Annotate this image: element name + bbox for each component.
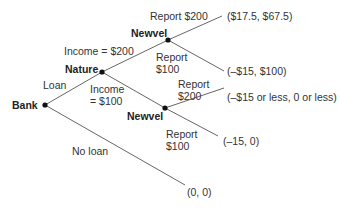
edge-loan-label: Loan [43, 79, 66, 92]
node-nature-dot [99, 69, 104, 74]
game-tree-edges [0, 0, 340, 210]
node-newvel-low-label: Newvel [127, 110, 163, 123]
edge-income-100-label-2: = $100 [90, 95, 122, 108]
edge-low-report-100-label-2: $100 [166, 140, 189, 153]
node-newvel-high-label: Newvel [131, 27, 167, 40]
edge-no-loan [45, 105, 185, 185]
payoff-low-report-100: (–15, 0) [223, 135, 259, 148]
edge-income-200-label: Income = $200 [64, 45, 134, 58]
edge-high-report-200-label: Report $200 [150, 10, 208, 23]
payoff-high-report-200: ($17.5, $67.5) [227, 10, 292, 23]
edge-high-report-100-label-2: $100 [156, 63, 179, 76]
payoff-no-loan: (0, 0) [187, 186, 212, 199]
edge-low-report-200-label-2: $200 [178, 90, 201, 103]
payoff-high-report-100: (–$15, $100) [227, 65, 287, 78]
node-bank-dot [42, 102, 47, 107]
node-nature-label: Nature [65, 63, 98, 76]
node-bank-label: Bank [12, 99, 38, 112]
payoff-low-report-200: (–$15 or less, 0 or less) [227, 91, 337, 104]
edge-no-loan-label: No loan [72, 145, 108, 158]
